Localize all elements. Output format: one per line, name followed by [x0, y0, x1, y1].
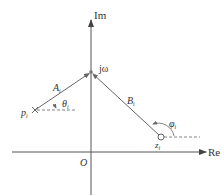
jw-point	[89, 70, 93, 74]
phi-label: φi	[169, 118, 177, 130]
real-axis-label: Re	[208, 146, 220, 158]
complex-plane-diagram: Im Re O jω Ai pi θi Bi zi φi	[0, 0, 224, 196]
origin-label: O	[80, 157, 87, 168]
zero-marker	[158, 134, 164, 140]
pole-label: pi	[20, 107, 28, 119]
theta-label: θi	[62, 98, 69, 110]
zero-label: zi	[154, 140, 161, 151]
vector-b-label: Bi	[127, 95, 135, 107]
vector-a-label: Ai	[52, 82, 61, 94]
vector-b	[93, 74, 159, 135]
imag-axis-label: Im	[94, 9, 107, 21]
jw-label: jω	[98, 63, 109, 74]
diagram-canvas: Im Re O jω Ai pi θi Bi zi φi	[0, 0, 224, 196]
theta-arc	[53, 104, 56, 108]
